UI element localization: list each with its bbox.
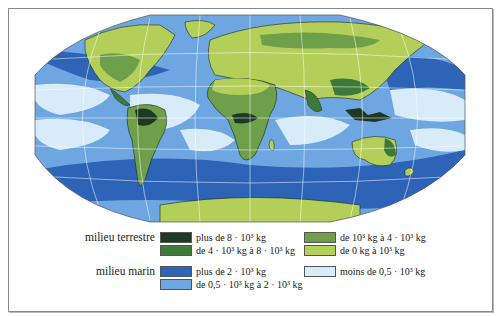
legend-item-terrestre-2: de 4 · 10³ kg à 8 · 10³ kg	[160, 245, 295, 256]
legend-label: plus de 8 · 10³ kg	[196, 232, 266, 243]
legend-label: de 4 · 10³ kg à 8 · 10³ kg	[196, 245, 295, 256]
legend-swatch	[304, 232, 336, 243]
legend-swatch	[304, 266, 336, 277]
legend-item-marin-2: de 0,5 · 10³ kg à 2 · 10³ kg	[160, 279, 303, 290]
legend-label: moins de 0,5 · 10³ kg	[340, 266, 425, 277]
legend-swatch	[304, 245, 336, 256]
legend-item-marin-1: plus de 2 · 10³ kg	[160, 266, 266, 277]
legend-item-marin-3: moins de 0,5 · 10³ kg	[304, 266, 425, 277]
legend-label: de 0 kg à 10³ kg	[340, 245, 404, 256]
legend-item-terrestre-4: de 0 kg à 10³ kg	[304, 245, 404, 256]
legend-swatch	[160, 279, 192, 290]
legend-item-terrestre-1: plus de 8 · 10³ kg	[160, 232, 266, 243]
legend-label: de 0,5 · 10³ kg à 2 · 10³ kg	[196, 279, 303, 290]
legend-label: plus de 2 · 10³ kg	[196, 266, 266, 277]
legend-swatch	[160, 245, 192, 256]
legend-swatch	[160, 266, 192, 277]
landmass-antarctica	[160, 198, 360, 231]
legend-item-terrestre-3: de 10³ kg à 4 · 10³ kg	[304, 232, 426, 243]
legend-label: de 10³ kg à 4 · 10³ kg	[340, 232, 426, 243]
legend-swatch	[160, 232, 192, 243]
